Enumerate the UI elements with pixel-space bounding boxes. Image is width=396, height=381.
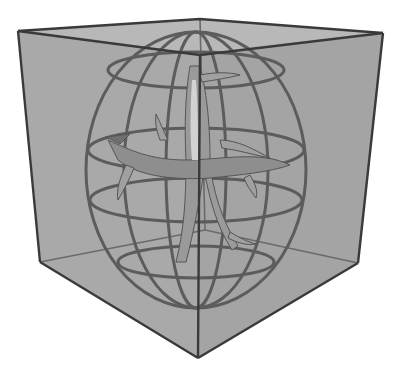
figure-canvas xyxy=(0,0,396,381)
cube-sphere-diagram xyxy=(0,0,396,381)
